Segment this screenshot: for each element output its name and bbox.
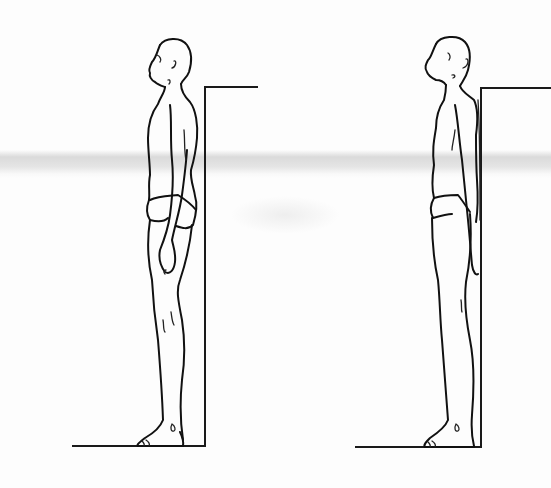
left-panel	[72, 39, 258, 446]
right-panel	[355, 37, 551, 447]
posture-drawing	[0, 0, 551, 488]
right-figure	[424, 37, 480, 447]
illustration-canvas	[0, 0, 551, 488]
left-figure	[137, 39, 197, 446]
left-wall-line	[72, 87, 258, 446]
